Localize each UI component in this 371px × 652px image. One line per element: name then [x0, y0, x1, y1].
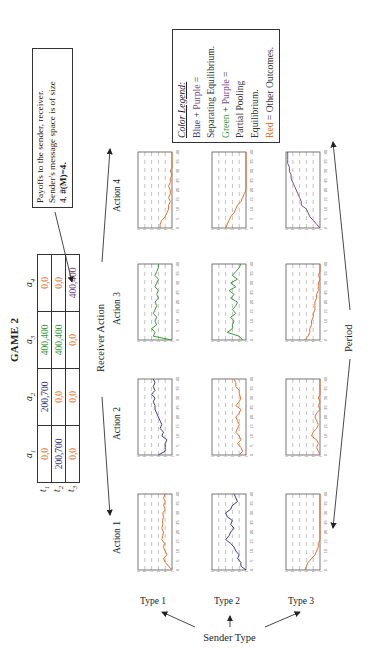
svg-text:10: 10 — [175, 548, 180, 553]
svg-text:5: 5 — [249, 217, 254, 220]
svg-text:20: 20 — [249, 414, 254, 419]
svg-text:35: 35 — [175, 501, 180, 506]
svg-text:1.0: 1.0 — [284, 570, 289, 572]
svg-text:40: 40 — [323, 150, 328, 154]
svg-text:20: 20 — [249, 529, 254, 534]
svg-text:0: 0 — [175, 568, 180, 571]
svg-text:20: 20 — [323, 299, 328, 304]
svg-text:25: 25 — [175, 520, 180, 525]
svg-text:30: 30 — [249, 280, 254, 285]
svg-text:5: 5 — [175, 559, 180, 562]
svg-text:0.6: 0.6 — [149, 228, 154, 230]
series-line — [160, 152, 172, 228]
svg-text:0.2: 0.2 — [237, 340, 242, 342]
svg-text:1.0: 1.0 — [210, 570, 215, 572]
svg-text:0.6: 0.6 — [297, 455, 302, 457]
arrow-to-action-4 — [102, 149, 110, 262]
svg-text:0.6: 0.6 — [223, 455, 228, 457]
action-1-label: Action 1 — [112, 521, 122, 554]
svg-text:20: 20 — [175, 299, 180, 304]
svg-text:1.0: 1.0 — [210, 455, 215, 457]
svg-text:0.2: 0.2 — [311, 455, 316, 457]
svg-text:0.2: 0.2 — [237, 455, 242, 457]
series-line — [305, 494, 320, 570]
svg-text:30: 30 — [323, 395, 328, 400]
series-line — [312, 379, 321, 455]
svg-text:5: 5 — [249, 559, 254, 562]
svg-text:10: 10 — [249, 318, 254, 323]
svg-text:40: 40 — [175, 262, 180, 266]
note-pointer-arrow — [55, 212, 72, 282]
svg-text:0.6: 0.6 — [223, 228, 228, 230]
svg-text:15: 15 — [249, 424, 254, 429]
svg-text:0.8: 0.8 — [216, 340, 221, 342]
svg-text:0.6: 0.6 — [297, 340, 302, 342]
svg-text:5: 5 — [175, 217, 180, 220]
svg-text:0.0: 0.0 — [170, 570, 175, 572]
svg-text:35: 35 — [249, 271, 254, 276]
svg-text:0.2: 0.2 — [311, 570, 316, 572]
svg-text:25: 25 — [323, 178, 328, 183]
svg-text:0.2: 0.2 — [163, 455, 168, 457]
svg-text:25: 25 — [323, 520, 328, 525]
svg-text:35: 35 — [175, 271, 180, 276]
svg-text:30: 30 — [249, 168, 254, 173]
svg-text:0.6: 0.6 — [297, 228, 302, 230]
svg-text:0.2: 0.2 — [163, 340, 168, 342]
svg-text:40: 40 — [249, 262, 254, 266]
svg-text:1.0: 1.0 — [284, 340, 289, 342]
svg-text:15: 15 — [323, 309, 328, 314]
svg-text:5: 5 — [249, 444, 254, 447]
svg-text:40: 40 — [249, 150, 254, 154]
svg-text:0.8: 0.8 — [142, 340, 147, 342]
figure-stage: GAME 2 a1a2a3a4t10,0200,700400,4000,0t22… — [0, 0, 371, 652]
svg-text:1.0: 1.0 — [210, 340, 215, 342]
svg-text:0.4: 0.4 — [304, 228, 309, 230]
svg-text:0.8: 0.8 — [216, 228, 221, 230]
svg-text:35: 35 — [323, 159, 328, 164]
svg-text:35: 35 — [175, 386, 180, 391]
svg-text:40: 40 — [249, 492, 254, 496]
svg-text:20: 20 — [175, 529, 180, 534]
svg-text:0.4: 0.4 — [304, 340, 309, 342]
arrow-period-right — [333, 142, 350, 310]
type-3-label: Type 3 — [288, 596, 314, 606]
chart-type-2-action-3: 05101520253035400.00.20.40.60.81.0 — [200, 262, 256, 342]
chart-type-3-action-3: 05101520253035400.00.20.40.60.81.0 — [274, 262, 330, 342]
svg-text:40: 40 — [175, 492, 180, 496]
chart-type-3-action-2: 05101520253035400.00.20.40.60.81.0 — [274, 377, 330, 457]
svg-text:0: 0 — [249, 453, 254, 456]
svg-text:10: 10 — [249, 433, 254, 438]
svg-text:15: 15 — [323, 539, 328, 544]
svg-text:0: 0 — [323, 226, 328, 229]
chart-type-2-action-4: 05101520253035400.00.20.40.60.81.0 — [200, 150, 256, 230]
svg-text:0.6: 0.6 — [149, 340, 154, 342]
series-line — [226, 494, 246, 570]
chart-type-2-action-2: 05101520253035400.00.20.40.60.81.0 — [200, 377, 256, 457]
svg-text:30: 30 — [175, 395, 180, 400]
svg-text:35: 35 — [249, 159, 254, 164]
svg-text:0.4: 0.4 — [230, 340, 235, 342]
svg-text:15: 15 — [249, 539, 254, 544]
svg-text:15: 15 — [175, 197, 180, 202]
svg-text:35: 35 — [323, 386, 328, 391]
svg-text:0.4: 0.4 — [230, 228, 235, 230]
chart-type-1-action-3: 05101520253035400.00.20.40.60.81.0 — [126, 262, 182, 342]
svg-text:0.0: 0.0 — [318, 340, 323, 342]
arrow-period-left — [333, 359, 350, 528]
svg-text:0.0: 0.0 — [244, 455, 249, 457]
svg-text:25: 25 — [249, 178, 254, 183]
svg-text:0: 0 — [249, 226, 254, 229]
svg-text:0: 0 — [249, 338, 254, 341]
svg-text:5: 5 — [323, 444, 328, 447]
svg-text:20: 20 — [323, 414, 328, 419]
svg-text:30: 30 — [323, 168, 328, 173]
series-line — [227, 264, 242, 340]
svg-text:5: 5 — [249, 329, 254, 332]
type-1-label: Type 1 — [140, 596, 166, 606]
svg-text:15: 15 — [175, 309, 180, 314]
svg-text:0.0: 0.0 — [170, 455, 175, 457]
svg-text:25: 25 — [175, 178, 180, 183]
action-3-label: Action 3 — [112, 292, 122, 325]
svg-text:20: 20 — [249, 187, 254, 192]
